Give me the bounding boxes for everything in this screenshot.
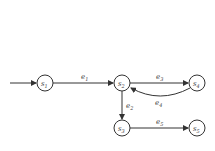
edge-label-e1: e1 (81, 73, 88, 82)
state-diagram: s1 s2 s3 s4 s5 e1 e2 e3 e4 e5 (0, 0, 215, 151)
node-s2: s2 (114, 75, 130, 91)
edge-label-e4: e4 (155, 99, 162, 108)
node-s3: s3 (114, 120, 130, 136)
edge-label-e3: e3 (156, 73, 163, 82)
node-s1: s1 (37, 75, 53, 91)
node-s5: s5 (189, 120, 205, 136)
edge-label-e5: e5 (156, 118, 163, 127)
edge-e4 (131, 88, 190, 96)
edge-label-e2: e2 (126, 102, 133, 111)
node-s4: s4 (189, 75, 205, 91)
